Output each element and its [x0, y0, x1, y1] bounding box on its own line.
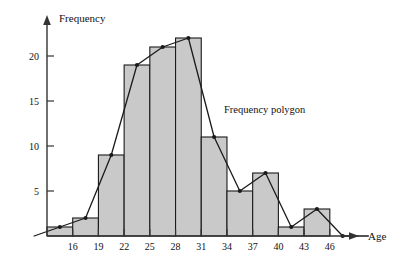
x-tick-label: 22 [119, 241, 129, 252]
histogram-bar [201, 137, 227, 236]
polygon-vertex-dot [135, 63, 139, 67]
x-tick-label: 37 [248, 241, 258, 252]
y-tick-label: 20 [29, 51, 39, 62]
polygon-vertex-dot [289, 225, 293, 229]
x-tick-label: 16 [68, 241, 78, 252]
polygon-vertex-dot [83, 216, 87, 220]
x-tick-label: 31 [196, 241, 206, 252]
y-axis-title: Frequency [59, 12, 106, 24]
histogram-bar [176, 38, 202, 236]
polygon-vertex-dot [212, 135, 216, 139]
chart-canvas: 5101520 1619222528313437404346 Frequency… [0, 0, 416, 261]
histogram-bar [253, 173, 279, 236]
polygon-vertex-dot [315, 207, 319, 211]
x-tick-label: 25 [145, 241, 155, 252]
x-tick-label: 40 [273, 241, 283, 252]
histogram-bar [98, 155, 124, 236]
y-tick-label: 5 [34, 186, 39, 197]
polygon-vertex-dot [238, 189, 242, 193]
x-tick-label: 46 [325, 241, 335, 252]
polygon-vertex-dot [263, 171, 267, 175]
frequency-histogram-chart: 5101520 1619222528313437404346 Frequency… [0, 0, 416, 261]
polygon-vertex-dot [109, 153, 113, 157]
x-tick-label: 34 [222, 241, 232, 252]
x-tick-label: 28 [171, 241, 181, 252]
histogram-bar [227, 191, 253, 236]
chart-annotations: Frequency polygon [224, 104, 306, 115]
polygon-vertex-dot [186, 36, 190, 40]
polygon-vertex-dot [58, 225, 62, 229]
y-tick-label: 15 [29, 96, 39, 107]
x-tick-label: 19 [93, 241, 103, 252]
histogram-bar [124, 65, 150, 236]
x-tick-label: 43 [299, 241, 309, 252]
y-tick-label: 10 [29, 141, 39, 152]
frequency-polygon-label: Frequency polygon [224, 104, 306, 115]
histogram-bar [150, 47, 176, 236]
x-axis-title: Age [368, 230, 386, 242]
polygon-vertex-dot [161, 45, 165, 49]
histogram-bar [304, 209, 330, 236]
